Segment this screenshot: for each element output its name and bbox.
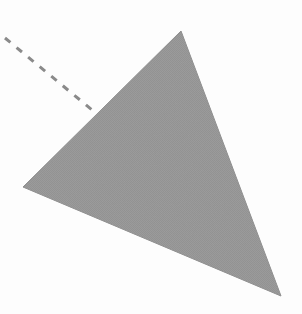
figure-svg	[0, 0, 302, 314]
figure-canvas	[0, 0, 302, 314]
